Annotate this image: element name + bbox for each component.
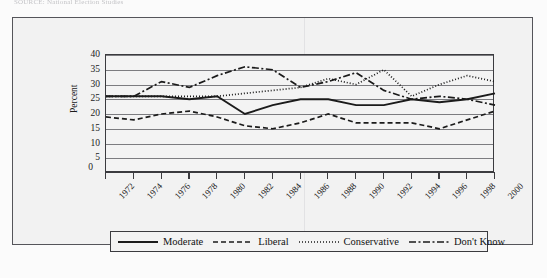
source-caption: SOURCE: National Election Studies [14, 0, 123, 6]
y-tick-label: 40 [91, 50, 101, 60]
series-line [106, 111, 495, 129]
legend-item: Moderate [118, 236, 203, 247]
x-tick-label: 1982 [256, 181, 276, 201]
x-tick [272, 172, 273, 179]
legend-line-swatch-icon [299, 237, 339, 247]
x-tick [411, 172, 412, 179]
x-tick-label: 1978 [200, 181, 220, 201]
x-tick [466, 172, 467, 179]
x-tick [494, 172, 495, 179]
x-tick-label: 1992 [395, 181, 415, 201]
x-tick-label: 1980 [228, 181, 248, 201]
x-tick [161, 172, 162, 179]
y-tick-label: 25 [91, 95, 101, 105]
x-tick-label: 1998 [478, 181, 498, 201]
legend-item: Don't Know [409, 236, 505, 247]
x-tick [188, 172, 189, 179]
x-tick-label: 1972 [117, 181, 137, 201]
legend-item: Liberal [213, 236, 288, 247]
y-tick-label: 15 [91, 124, 101, 134]
page-canvas: SOURCE: National Election Studies Percen… [0, 0, 547, 278]
legend-line-swatch-icon [118, 237, 158, 247]
legend: ModerateLiberalConservativeDon't Know [110, 231, 488, 252]
x-tick-label: 1988 [339, 181, 359, 201]
y-tick-label: 35 [91, 65, 101, 75]
x-tick [133, 172, 134, 179]
x-tick [300, 172, 301, 179]
x-tick-label: 1984 [283, 181, 303, 201]
plot-area: 403530252015105 [105, 54, 494, 172]
legend-label: Conservative [344, 236, 399, 247]
x-axis: 1972197419761978198019821984198619881990… [105, 172, 494, 173]
legend-line-swatch-icon [213, 237, 253, 247]
x-tick [105, 172, 106, 179]
legend-line-swatch-icon [409, 237, 449, 247]
legend-label: Don't Know [454, 236, 505, 247]
legend-label: Moderate [163, 236, 203, 247]
y-tick-label: 30 [91, 80, 101, 90]
y-axis-title: Percent [69, 85, 79, 114]
x-tick-label: 1986 [311, 181, 331, 201]
y-tick-label: 5 [95, 154, 100, 164]
x-tick-label: 1990 [367, 181, 387, 201]
x-tick [327, 172, 328, 179]
x-tick [216, 172, 217, 179]
x-tick-label: 1994 [422, 181, 442, 201]
x-tick [355, 172, 356, 179]
series-line [106, 70, 495, 97]
figure-frame: Percent 0 403530252015105 19721974197619… [12, 17, 533, 245]
y-tick-label: 20 [91, 109, 101, 119]
legend-label: Liberal [258, 236, 288, 247]
x-tick [438, 172, 439, 179]
x-tick [383, 172, 384, 179]
x-tick-label: 1996 [450, 181, 470, 201]
x-tick-label: 1974 [145, 181, 165, 201]
x-tick-label: 2000 [506, 181, 526, 201]
y-axis-zero-label: 0 [88, 162, 93, 172]
x-tick [244, 172, 245, 179]
x-tick-label: 1976 [172, 181, 192, 201]
series-lines [106, 55, 495, 173]
legend-item: Conservative [299, 236, 399, 247]
y-tick-label: 10 [91, 139, 101, 149]
